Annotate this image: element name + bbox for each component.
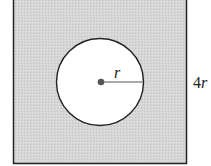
center-dot (98, 79, 105, 86)
side-length-variable: r (201, 74, 208, 91)
side-length-coefficient: 4 (193, 74, 201, 91)
diagram-canvas: r 4r (0, 0, 211, 166)
radius-label: r (114, 64, 121, 81)
side-length-label: 4r (193, 74, 208, 91)
